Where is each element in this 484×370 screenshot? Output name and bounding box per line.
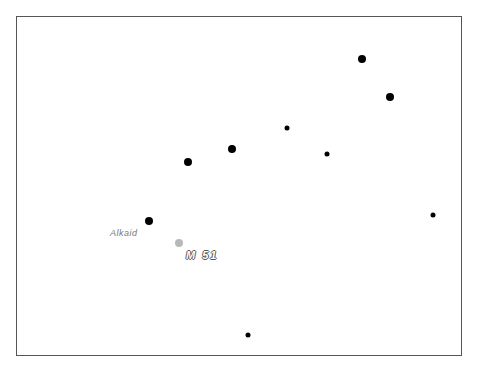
star-4 [325, 152, 330, 157]
star-3 [285, 126, 290, 131]
star-alkaid [145, 217, 153, 225]
star-8 [246, 333, 251, 338]
star-7 [431, 213, 436, 218]
deep-sky-object-m51 [175, 239, 183, 247]
star-1 [184, 158, 192, 166]
star-chart-frame [16, 16, 462, 356]
star-5 [358, 55, 366, 63]
star-2 [228, 145, 236, 153]
star-6 [386, 93, 394, 101]
object-label-m51: M 51 [186, 249, 218, 261]
star-label-alkaid: Alkaid [110, 228, 138, 238]
